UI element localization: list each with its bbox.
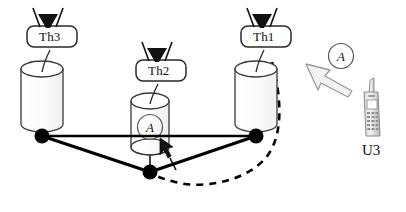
agent-arrow-a xyxy=(306,44,354,98)
mobile-phone-icon xyxy=(364,78,380,136)
node-left[interactable] xyxy=(35,129,50,144)
base-station-label-th1: Th1 xyxy=(253,29,275,45)
base-station-th2[interactable] xyxy=(131,42,186,172)
th1-cylinder-body xyxy=(235,69,277,132)
th3-cylinder-top xyxy=(21,61,63,77)
diagram-vector-layer xyxy=(0,0,406,212)
antenna-icon xyxy=(142,42,172,62)
th3-cylinder-body xyxy=(21,69,63,132)
antenna-icon xyxy=(247,8,277,28)
th1-cylinder-top xyxy=(235,61,277,77)
figure-canvas: Th3 Th2 Th1 A A U3 xyxy=(0,0,406,212)
base-station-th3[interactable] xyxy=(21,8,77,136)
base-station-label-th2: Th2 xyxy=(148,63,170,79)
th2-cylinder-top xyxy=(131,93,169,109)
base-station-th1[interactable] xyxy=(235,8,291,136)
node-right[interactable] xyxy=(249,129,264,144)
node-bottom[interactable] xyxy=(143,165,158,180)
base-station-label-th3: Th3 xyxy=(39,29,61,45)
antenna-icon xyxy=(33,8,63,28)
agent-marker-a-text: A xyxy=(146,120,154,136)
agent-arrow-a-text: A xyxy=(337,49,345,65)
user-terminal-label-u3: U3 xyxy=(362,142,380,159)
